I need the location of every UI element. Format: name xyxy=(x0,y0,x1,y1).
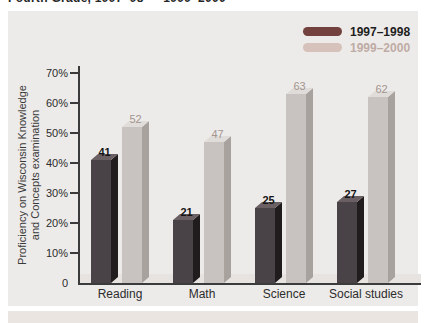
bar-side xyxy=(388,91,395,283)
y-tick xyxy=(70,252,78,254)
y-tick-label: 50% xyxy=(26,127,68,139)
y-tick-label: 30% xyxy=(26,187,68,199)
bar-value-label: 41 xyxy=(85,147,125,158)
category-label: Math xyxy=(157,288,247,301)
y-tick-label: 70% xyxy=(26,67,68,79)
y-tick xyxy=(70,132,78,134)
category-label: Social studies xyxy=(321,288,411,301)
bar-value-label: 47 xyxy=(198,129,238,140)
bar-side xyxy=(357,196,364,283)
y-tick xyxy=(70,102,78,104)
bar-side xyxy=(111,154,118,283)
category-label: Reading xyxy=(75,288,165,301)
bar-front xyxy=(122,127,142,283)
category-label: Science xyxy=(239,288,329,301)
bar-side xyxy=(306,88,313,283)
bar-side xyxy=(142,121,149,283)
y-tick-label: 60% xyxy=(26,97,68,109)
legend-label-1997-1998: 1997–1998 xyxy=(350,26,410,38)
figure-title: Fourth Grade, 1997–98 — 1999–2000 xyxy=(8,0,226,5)
y-tick xyxy=(70,222,78,224)
y-tick-label: 0 xyxy=(26,277,68,289)
bar-value-label: 62 xyxy=(362,84,402,95)
legend-swatch-1997-1998 xyxy=(303,27,342,36)
bar-front xyxy=(368,97,388,283)
bar-value-label: 27 xyxy=(331,189,371,200)
bar-front xyxy=(286,94,306,283)
y-tick xyxy=(70,72,78,74)
bar-value-label: 25 xyxy=(249,195,289,206)
bottom-band xyxy=(8,311,418,323)
bar-front xyxy=(173,220,193,283)
legend-label-1999-2000: 1999–2000 xyxy=(350,42,410,54)
y-axis-line xyxy=(78,66,80,285)
bar-front xyxy=(204,142,224,283)
y-tick xyxy=(70,192,78,194)
y-tick-label: 10% xyxy=(26,247,68,259)
y-tick-label: 20% xyxy=(26,217,68,229)
legend-swatch-1999-2000 xyxy=(303,43,342,52)
y-tick-label: 40% xyxy=(26,157,68,169)
bar-front xyxy=(91,160,111,283)
bar-side xyxy=(224,136,231,283)
x-axis-line xyxy=(78,283,421,285)
bar-front xyxy=(337,202,357,283)
bar-value-label: 63 xyxy=(280,81,320,92)
figure: Fourth Grade, 1997–98 — 1999–2000 1997–1… xyxy=(0,0,426,323)
bar-side xyxy=(275,202,282,283)
bar-value-label: 52 xyxy=(116,114,156,125)
bar-value-label: 21 xyxy=(167,207,207,218)
bar-front xyxy=(255,208,275,283)
bar-side xyxy=(193,214,200,283)
y-tick xyxy=(70,162,78,164)
